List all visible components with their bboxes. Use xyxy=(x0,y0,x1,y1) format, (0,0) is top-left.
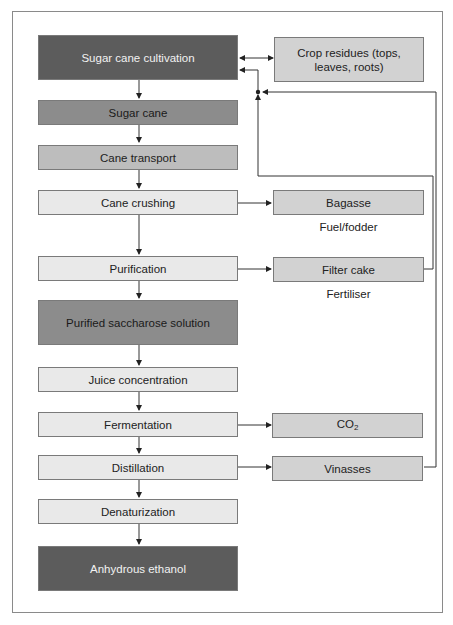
box-label: Sugar cane xyxy=(109,106,168,120)
box-juice-concentration: Juice concentration xyxy=(38,367,238,392)
box-filter-cake: Filter cake xyxy=(273,257,424,282)
box-cane-crushing: Cane crushing xyxy=(38,190,238,215)
box-cane-transport: Cane transport xyxy=(38,145,238,170)
box-label: Filter cake xyxy=(322,263,375,277)
box-label: CO2 xyxy=(337,417,359,435)
box-label: Fermentation xyxy=(104,418,172,432)
box-label: Crop residues (tops, leaves, roots) xyxy=(289,46,409,74)
box-fermentation: Fermentation xyxy=(38,412,238,437)
box-label: Vinasses xyxy=(324,462,370,476)
box-bagasse: Bagasse xyxy=(273,190,424,215)
box-label: Purified saccharose solution xyxy=(66,316,210,330)
box-vinasses: Vinasses xyxy=(272,456,423,481)
box-label: Anhydrous ethanol xyxy=(90,562,186,576)
box-purification: Purification xyxy=(38,256,238,281)
box-label: Juice concentration xyxy=(88,373,187,387)
box-purified-saccharose-solution: Purified saccharose solution xyxy=(38,300,238,345)
box-label: Cane crushing xyxy=(101,196,175,210)
box-label: Sugar cane cultivation xyxy=(81,51,194,65)
co2-label: CO xyxy=(337,418,354,430)
note-fertiliser: Fertiliser xyxy=(273,288,424,300)
box-label: Denaturization xyxy=(101,505,175,519)
box-label: Purification xyxy=(110,262,167,276)
box-denaturization: Denaturization xyxy=(38,499,238,524)
note-fuel-fodder: Fuel/fodder xyxy=(273,221,424,233)
box-sugar-cane: Sugar cane xyxy=(38,100,238,125)
box-co2: CO2 xyxy=(272,413,423,438)
box-distillation: Distillation xyxy=(38,455,238,480)
box-crop-residues: Crop residues (tops, leaves, roots) xyxy=(274,37,424,82)
box-label: Distillation xyxy=(112,461,164,475)
box-anhydrous-ethanol: Anhydrous ethanol xyxy=(38,546,238,591)
box-label: Bagasse xyxy=(326,196,371,210)
box-label: Cane transport xyxy=(100,151,176,165)
co2-subscript: 2 xyxy=(354,423,358,432)
box-sugar-cane-cultivation: Sugar cane cultivation xyxy=(38,35,238,80)
